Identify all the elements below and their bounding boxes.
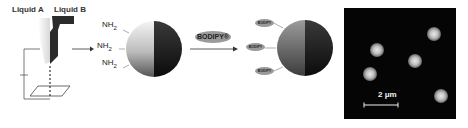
bodipy-tag-2: BODIPY <box>246 43 265 51</box>
nh2-label-2: NH2 <box>97 41 112 52</box>
fluorescent-particle <box>434 89 448 103</box>
electrospray-setup <box>0 0 110 110</box>
scale-bar-label: 2 μm <box>378 90 397 99</box>
arrow-2 <box>190 45 238 53</box>
fluorescence-micrograph: 2 μm <box>344 8 456 119</box>
janus-particle-bodipy <box>265 15 335 85</box>
janus-particle-amine <box>115 15 185 85</box>
particle-light-half <box>126 21 154 77</box>
bodipy-reagent-badge: BODIPY® <box>195 31 231 43</box>
scale-bar <box>363 102 399 108</box>
fluorescent-particle <box>370 43 384 57</box>
fluorescent-particle <box>427 27 441 41</box>
particle-dark-half <box>154 21 182 77</box>
arrow-1 <box>72 45 94 53</box>
fluorescent-particle <box>363 67 377 81</box>
fluorescent-particle <box>408 54 422 68</box>
particle-dark-half <box>305 20 333 76</box>
liquid-a-nozzle <box>38 18 50 64</box>
liquid-b-nozzle <box>50 16 74 64</box>
